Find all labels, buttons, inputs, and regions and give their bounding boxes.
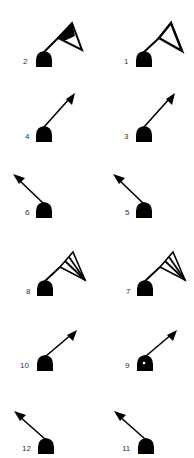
symbol-label: 4 [25, 133, 29, 141]
symbol-12-arrow: 12 [0, 380, 97, 456]
symbol-label: 9 [125, 362, 129, 370]
symbol-label: 12 [22, 445, 31, 453]
arrow-up-right-icon [97, 76, 194, 152]
arrow-up-left-icon [0, 152, 97, 228]
symbol-label: 2 [23, 58, 27, 66]
symbol-label: 3 [124, 133, 128, 141]
symbol-1-flag-outline: 1 [97, 0, 194, 76]
symbol-11-arrow: 11 [97, 380, 194, 456]
arrow-up-left-icon [97, 380, 194, 458]
symbol-4-arrow: 4 [0, 76, 97, 152]
symbol-3-arrow: 3 [97, 76, 194, 152]
symbol-5-arrow: 5 [97, 152, 194, 228]
symbol-label: 6 [25, 209, 29, 217]
symbol-6-arrow: 6 [0, 152, 97, 228]
symbol-10-arrow: 10 [0, 304, 97, 380]
symbol-label: 10 [20, 362, 29, 370]
symbol-label: 1 [124, 58, 128, 66]
striped-flag-icon [97, 228, 194, 304]
arrow-up-right-dot-icon [97, 304, 194, 380]
arrow-up-left-icon [97, 152, 194, 228]
symbol-label: 11 [122, 445, 130, 453]
symbol-label: 8 [26, 288, 30, 296]
symbol-2-flag-filled: 2 [0, 0, 97, 76]
filled-flag-icon [0, 0, 97, 76]
arrow-up-left-icon [0, 380, 97, 458]
symbol-label: 7 [126, 288, 130, 296]
symbol-9-arrow-dot: 9 [97, 304, 194, 380]
symbol-7-flag-striped: 7 [97, 228, 194, 304]
arrow-up-right-icon [0, 76, 97, 152]
outline-flag-icon [97, 0, 194, 76]
symbol-label: 5 [125, 209, 129, 217]
arrow-up-right-icon [0, 304, 97, 380]
symbol-8-flag-striped: 8 [0, 228, 97, 304]
striped-flag-icon [0, 228, 97, 304]
